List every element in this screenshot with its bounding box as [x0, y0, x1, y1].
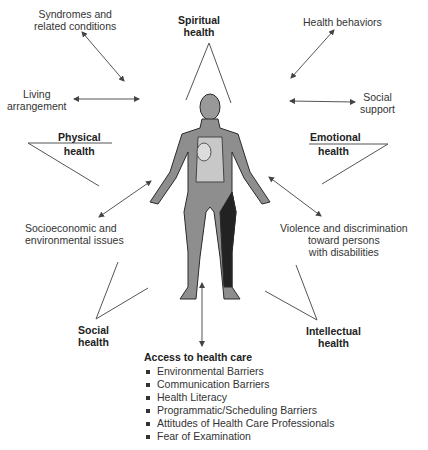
spiritual-health-label: Spiritual health	[178, 14, 220, 38]
list-item: Attitudes of Health Care Professionals	[144, 417, 334, 430]
label-line: Emotional	[310, 131, 361, 143]
access-barrier-list: Environmental Barriers Communication Bar…	[144, 365, 334, 443]
label-line: Living	[7, 88, 67, 100]
label-line: health	[306, 337, 361, 349]
label-line: Intellectual	[306, 325, 361, 337]
human-anatomy-figure	[140, 92, 280, 307]
intellectual-health-label: Intellectual health	[306, 325, 361, 349]
label-line: with disabilities	[280, 246, 408, 258]
label-line: health	[78, 336, 109, 348]
label-line: arrangement	[7, 100, 67, 112]
label-line: health	[178, 26, 220, 38]
emotional-health-label: Emotional health	[310, 131, 361, 157]
label-line: related conditions	[34, 20, 116, 32]
health-behaviors-label: Health behaviors	[303, 16, 382, 28]
label-line: Violence and discrimination	[280, 222, 408, 234]
label-line: Spiritual	[178, 14, 220, 26]
list-item: Fear of Examination	[144, 430, 334, 443]
social-health-label: Social health	[78, 324, 109, 348]
label-line: Physical	[58, 131, 101, 143]
list-item: Communication Barriers	[144, 378, 334, 391]
physical-health-label: Physical health	[58, 131, 101, 157]
label-line: Syndromes and	[34, 8, 116, 20]
list-item: Health Literacy	[144, 391, 334, 404]
label-line: Health behaviors	[303, 16, 382, 28]
label-line: environmental issues	[25, 234, 124, 246]
access-title: Access to health care	[144, 351, 334, 364]
living-arrangement-label: Living arrangement	[7, 88, 67, 112]
socioeconomic-label: Socioeconomic and environmental issues	[25, 222, 124, 246]
label-line: Social	[360, 91, 395, 103]
label-line: Social	[78, 324, 109, 336]
list-item: Programmatic/Scheduling Barriers	[144, 404, 334, 417]
label-line: Socioeconomic and	[25, 222, 124, 234]
social-support-label: Social support	[360, 91, 395, 115]
syndromes-label: Syndromes and related conditions	[34, 8, 116, 32]
violence-label: Violence and discrimination toward perso…	[280, 222, 408, 258]
label-line: health	[310, 145, 361, 157]
label-line: support	[360, 103, 395, 115]
label-line: health	[58, 145, 101, 157]
list-item: Environmental Barriers	[144, 365, 334, 378]
label-line: toward persons	[280, 234, 408, 246]
access-to-health-care: Access to health care Environmental Barr…	[144, 351, 334, 443]
